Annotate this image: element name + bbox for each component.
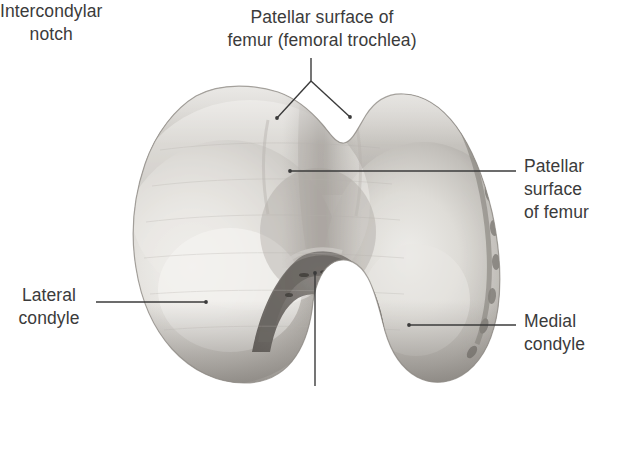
leader-trochlea-right-branch (311, 81, 350, 117)
label-medial-condyle: Medial condyle (524, 310, 620, 356)
label-lateral-condyle: Lateral condyle (6, 284, 92, 330)
label-patellar-surface-of-femur: Patellar surface of femur (524, 155, 620, 223)
inferior-shadow (130, 300, 520, 395)
femur-illustration (0, 0, 621, 457)
label-patellar-surface-femoral-trochlea: Patellar surface of femur (femoral troch… (188, 6, 456, 52)
anatomy-figure: Patellar surface of femur (femoral troch… (0, 0, 621, 457)
label-intercondylar-notch: Intercondylar notch (0, 0, 102, 46)
femur-bone-body (116, 75, 524, 395)
